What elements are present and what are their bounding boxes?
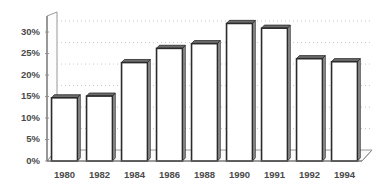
- x-axis-labels: 198019821984198619881990199119921994: [54, 169, 356, 180]
- bar-front-face[interactable]: [297, 59, 323, 161]
- bar-1988[interactable]: [192, 41, 221, 161]
- x-axis-label: 1984: [124, 169, 146, 180]
- bar-1990[interactable]: [227, 20, 256, 161]
- bar-front-face[interactable]: [122, 63, 148, 161]
- y-axis-label: 30%: [21, 26, 41, 37]
- y-axis-label: 25%: [21, 47, 41, 58]
- chart-canvas: 0%5%10%15%20%25%30%198019821984198619881…: [0, 0, 379, 190]
- y-axis-label: 0%: [26, 155, 40, 166]
- bar-front-face[interactable]: [332, 62, 358, 161]
- x-axis-label: 1982: [89, 169, 110, 180]
- bar-front-face[interactable]: [87, 96, 113, 161]
- x-axis-label: 1988: [194, 169, 215, 180]
- bar-front-face[interactable]: [52, 98, 78, 161]
- bar-front-face[interactable]: [227, 23, 253, 161]
- bar-front-face[interactable]: [192, 44, 218, 161]
- y-axis-label: 20%: [21, 69, 41, 80]
- bar-1991[interactable]: [262, 25, 291, 161]
- bar-chart: 0%5%10%15%20%25%30%198019821984198619881…: [0, 0, 379, 190]
- y-axis-label: 15%: [21, 90, 41, 101]
- bar-1984[interactable]: [122, 59, 151, 161]
- bar-front-face[interactable]: [157, 48, 183, 161]
- y-axis-labels: 0%5%10%15%20%25%30%: [21, 26, 41, 166]
- y-axis-label: 5%: [26, 133, 40, 144]
- x-axis-label: 1986: [159, 169, 180, 180]
- bar-1992[interactable]: [297, 56, 326, 161]
- bars-group: [52, 20, 361, 161]
- bar-front-face[interactable]: [262, 28, 288, 161]
- x-axis-label: 1992: [299, 169, 320, 180]
- bar-1994[interactable]: [332, 59, 361, 161]
- x-axis-label: 1990: [229, 169, 250, 180]
- bar-1980[interactable]: [52, 95, 81, 161]
- y-axis-label: 10%: [21, 112, 41, 123]
- bar-1982[interactable]: [87, 93, 116, 161]
- bar-1986[interactable]: [157, 45, 186, 161]
- x-axis-label: 1994: [334, 169, 356, 180]
- x-axis-label: 1991: [264, 169, 286, 180]
- x-axis-label: 1980: [54, 169, 75, 180]
